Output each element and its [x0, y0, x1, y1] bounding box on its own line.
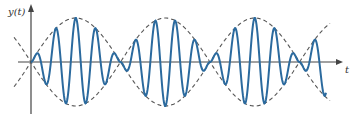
plot-area [0, 0, 362, 121]
y-axis-label: y(t) [8, 6, 25, 17]
x-axis-arrow-icon [336, 59, 343, 65]
am-signal-chart: y(t) t [0, 0, 362, 121]
x-axis-label: t [345, 64, 349, 75]
y-axis-arrow-icon [28, 4, 34, 12]
